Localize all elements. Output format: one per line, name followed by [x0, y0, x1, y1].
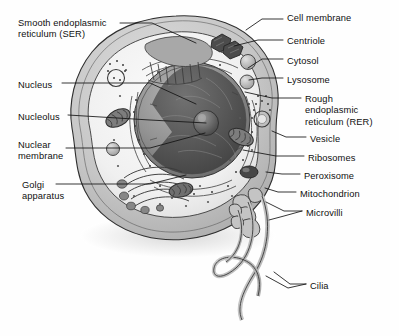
- label-nucleolus: Nucleolus: [18, 112, 60, 123]
- label-vesicle: Vesicle: [310, 134, 340, 145]
- label-cilia: Cilia: [310, 281, 329, 292]
- leader-line-vesicle: [272, 131, 306, 137]
- leader-line-ser: [120, 23, 196, 43]
- leader-line-microvilli: [266, 202, 302, 220]
- leader-line-centriole: [234, 40, 283, 46]
- leader-line-golgi: [56, 175, 186, 184]
- label-ser: Smooth endoplasmic reticulum (SER): [18, 18, 107, 41]
- label-golgi: Golgi apparatus: [22, 180, 64, 203]
- label-peroxisome: Peroxisome: [304, 171, 354, 182]
- leader-line-nucleolus: [68, 115, 206, 123]
- label-rer: Rough endoplasmic reticulum (RER): [305, 94, 373, 128]
- label-microvilli: Microvilli: [306, 208, 343, 219]
- leader-line-nuclear-membrane: [66, 133, 205, 148]
- label-cell-membrane: Cell membrane: [287, 13, 351, 24]
- label-ribosomes: Ribosomes: [308, 153, 355, 164]
- label-lysosome: Lysosome: [287, 75, 330, 86]
- leader-line-lysosome: [249, 78, 283, 80]
- leader-line-ribosomes: [243, 150, 304, 156]
- leader-line-peroxisome: [266, 172, 300, 174]
- label-centriole: Centriole: [287, 36, 325, 47]
- leader-line-cell-membrane: [246, 19, 283, 30]
- label-nucleus: Nucleus: [18, 80, 52, 91]
- leader-line-cilia: [266, 272, 306, 288]
- cell-diagram-figure: Smooth endoplasmic reticulum (SER)Nucleu…: [0, 0, 399, 336]
- label-nuclear-membrane: Nuclear membrane: [18, 140, 63, 163]
- leader-line-nucleus: [62, 83, 196, 104]
- leader-line-cytosol: [248, 59, 283, 68]
- label-cytosol: Cytosol: [287, 56, 319, 67]
- leader-lines: [0, 0, 399, 336]
- label-mitochondrion: Mitochondrion: [300, 189, 360, 200]
- leader-line-rer: [245, 92, 301, 98]
- leader-line-mitochondrion: [265, 188, 296, 192]
